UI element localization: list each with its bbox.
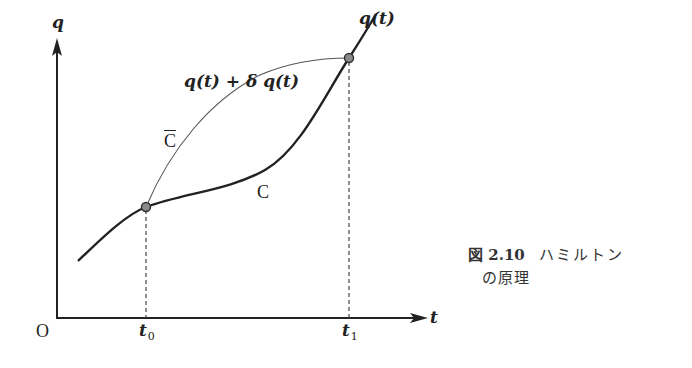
caption-title-line2: の原理 [468, 267, 688, 290]
t0-label-sub: 0 [148, 330, 155, 343]
t1-label: t1 [342, 322, 358, 342]
actual-path-name: C [257, 183, 269, 201]
end-point-marker [345, 54, 354, 63]
x-axis-label: t [430, 309, 438, 326]
varied-path-label: q(t) + δ q(t) [184, 73, 299, 90]
t0-label: t0 [139, 322, 155, 342]
y-axis-label: q [52, 14, 64, 31]
hamilton-principle-figure: q t O t0 t1 q(t) q(t) + δ q(t) C C 図 2.1… [0, 0, 692, 368]
figure-caption: 図 2.10ハミルトン の原理 [468, 244, 688, 290]
actual-path-label: q(t) [359, 10, 395, 27]
origin-label: O [36, 322, 49, 340]
t1-label-base: t [342, 320, 350, 340]
caption-title-line1: ハミルトン [539, 246, 624, 264]
actual-path-curve [78, 14, 376, 261]
varied-path-name: C [164, 132, 176, 150]
diagram-canvas [0, 0, 692, 368]
start-point-marker [142, 203, 151, 212]
figure-number: 図 2.10 [468, 246, 525, 264]
t1-label-sub: 1 [351, 330, 358, 343]
t0-label-base: t [139, 320, 147, 340]
